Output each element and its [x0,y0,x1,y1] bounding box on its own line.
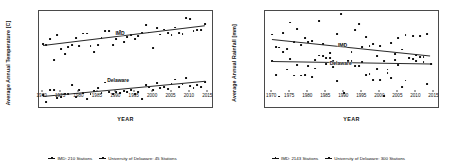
x-tick-mark [289,90,290,92]
data-point [369,45,371,47]
data-point [365,36,367,38]
data-point [104,82,106,84]
x-tick-mark [133,90,134,92]
data-point [329,57,331,59]
data-point [289,22,291,24]
data-point [275,46,277,48]
data-point [126,36,128,38]
legend-label: IMD: 2143 Stations [281,156,318,161]
data-point [60,48,62,50]
series-annotation: Delaware [107,77,129,83]
data-point [387,72,389,74]
data-point [200,29,202,31]
data-point [278,47,280,49]
data-point [390,42,392,44]
y-axis-label-temperature: Average Annual Temperature [C] [2,0,14,126]
data-point [123,41,125,43]
data-point [426,33,428,35]
x-tick-mark [96,90,97,92]
data-point [182,33,184,35]
data-point [271,34,273,36]
data-point [412,58,414,60]
data-point [304,74,306,76]
data-point [340,14,342,16]
x-axis-label-temperature: YEAR [38,116,213,122]
data-point [304,37,306,39]
legend-label: IMD: 210 Stations [57,156,92,161]
data-point [115,39,117,41]
legend-item[interactable]: University of Delaware: 300 Stations [325,156,405,161]
data-point [178,86,180,88]
data-point [134,38,136,40]
data-point [86,33,88,35]
x-tick-mark [415,90,416,92]
data-point [296,64,298,66]
data-point [75,37,77,39]
trend-line [272,39,431,57]
data-point [97,87,99,89]
series-annotation: IMD [338,42,347,48]
x-tick-mark [307,90,308,92]
x-tick-mark [115,90,116,92]
figure-climate-comparison: Average Annual Temperature [C] 232425IMD… [0,0,451,166]
data-point [405,34,407,36]
data-point [71,84,73,86]
data-point [79,45,81,47]
data-point [104,30,106,32]
x-tick-mark [152,90,153,92]
legend-marker-icon [99,156,106,160]
data-point [405,80,407,82]
data-point [372,43,374,45]
data-point [379,79,381,81]
data-point [160,34,162,36]
data-point [358,65,360,67]
x-tick-mark [397,90,398,92]
data-point [322,55,324,57]
data-point [336,80,338,82]
y-tick-mark [38,59,39,60]
data-point [325,57,327,59]
data-point [426,84,428,86]
data-point [300,75,302,77]
legend-item[interactable]: University of Delaware: 45 Stations [99,156,176,161]
series-annotation: Delaware [330,60,352,66]
data-point [401,49,403,51]
data-point [200,87,202,89]
data-point [286,48,288,50]
data-point [376,55,378,57]
y-tick-mark [264,70,265,71]
data-point [145,24,147,26]
data-point [387,69,389,71]
y-tick-mark [264,87,265,88]
data-point [90,45,92,47]
data-point [419,56,421,58]
data-point [93,51,95,53]
legend-marker-icon [325,156,332,160]
data-point [137,35,139,37]
data-point [311,76,313,78]
data-point [178,32,180,34]
legend-item[interactable]: IMD: 2143 Stations [272,156,318,161]
legend-marker-icon [272,156,279,160]
data-point [423,56,425,58]
data-point [282,32,284,34]
data-point [394,53,396,55]
data-point [282,51,284,53]
data-point [325,63,327,65]
x-axis-label-rainfall: YEAR [264,116,439,122]
data-point [152,47,154,49]
x-tick-mark [325,90,326,92]
data-point [401,86,403,88]
data-point [71,44,73,46]
data-point [390,77,392,79]
legend-item[interactable]: IMD: 210 Stations [48,156,92,161]
data-point [336,33,338,35]
y-axis-label-rainfall: Average Annual Rainfall [mm] [228,0,240,126]
data-point [64,53,66,55]
data-point [315,68,317,70]
data-point [369,73,371,75]
data-point [358,23,360,25]
data-point [174,79,176,81]
data-point [307,65,309,67]
data-point [318,20,320,22]
